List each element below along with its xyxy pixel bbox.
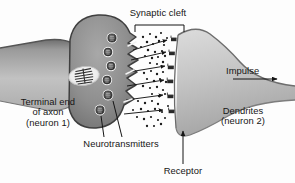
vesicle (95, 105, 106, 116)
receptor (167, 80, 173, 83)
vesicle (103, 90, 114, 101)
diffusion-arrow (129, 66, 165, 72)
label-dendrites: Dendrites (neuron 2) (205, 106, 281, 127)
diffusion-arrow (133, 40, 167, 50)
synapse-diagram: Synaptic cleft Impulse Terminal end of a… (0, 0, 295, 183)
label-neurotransmitters: Neurotransmitters (62, 139, 180, 149)
receptor (169, 110, 175, 113)
synapse-illustration (0, 0, 295, 183)
diffusion-arrow (131, 52, 166, 60)
label-synaptic-cleft: Synaptic cleft (110, 8, 206, 18)
label-terminal-end-of-axon: Terminal end of axon (neuron 1) (6, 97, 90, 128)
label-impulse: Impulse (226, 66, 284, 76)
label-receptor: Receptor (152, 166, 214, 176)
synaptic-cleft-bracket (135, 25, 184, 32)
vesicle (102, 75, 112, 85)
diffusion-arrow (124, 110, 163, 114)
receptor (167, 95, 173, 98)
vesicle (103, 47, 113, 57)
receptor (171, 38, 177, 41)
receptor (168, 66, 174, 69)
vesicle (106, 61, 116, 71)
vesicle (107, 33, 118, 44)
receptor (169, 52, 175, 55)
